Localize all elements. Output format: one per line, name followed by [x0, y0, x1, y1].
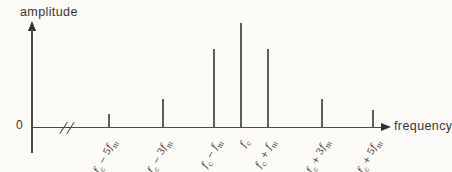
- x-axis-line: [32, 127, 383, 129]
- tick-label-6: fc + 5fm: [355, 137, 382, 172]
- origin-zero-label: 0: [16, 118, 23, 132]
- spectral-line-5: [321, 99, 323, 127]
- tick-label-0: fc − 5fm: [91, 137, 118, 172]
- tick-label-5: fc + 3fm: [304, 137, 331, 172]
- tick-label-3: fc: [237, 137, 250, 149]
- spectral-line-1: [162, 99, 164, 127]
- spectral-line-3: [240, 23, 242, 127]
- spectral-line-0: [108, 114, 110, 127]
- spectrum-figure: amplitude 0 frequency fc − 5fmfc − 3fmfc…: [0, 0, 452, 172]
- tick-label-1: fc − 3fm: [145, 137, 172, 172]
- spectral-line-2: [213, 49, 215, 127]
- spectral-line-6: [372, 110, 374, 127]
- y-axis-line: [31, 29, 33, 153]
- y-axis-label: amplitude: [20, 5, 78, 19]
- tick-label-2: fc − fm: [199, 137, 223, 169]
- x-axis-label: frequency: [394, 119, 452, 133]
- x-axis-arrow-icon: [381, 123, 391, 131]
- tick-label-4: fc + fm: [253, 137, 277, 169]
- spectral-line-4: [267, 49, 269, 127]
